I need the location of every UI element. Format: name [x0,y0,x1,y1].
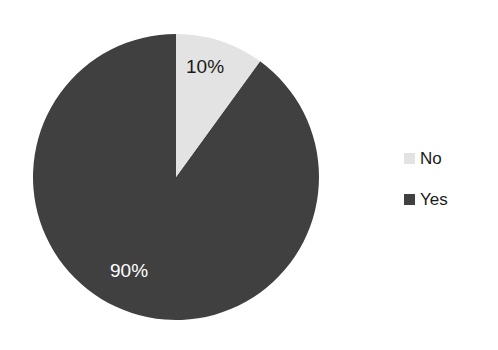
pie-slice-label-yes: 90% [110,260,148,282]
legend-label-no: No [420,149,442,168]
pie-slice-label-no: 10% [186,56,224,78]
legend-item-no[interactable]: No [404,148,448,168]
legend-label-yes: Yes [420,190,448,209]
legend-item-yes[interactable]: Yes [404,189,448,209]
pie-svg [0,0,360,350]
legend-swatch-no-icon [404,153,415,164]
pie-plot-area: 10% 90% [0,0,360,350]
legend-swatch-yes-icon [404,194,415,205]
chart-legend: No Yes [404,148,448,209]
pie-chart-figure: 10% 90% No Yes [0,0,498,350]
pie-slice-yes[interactable] [33,34,319,320]
